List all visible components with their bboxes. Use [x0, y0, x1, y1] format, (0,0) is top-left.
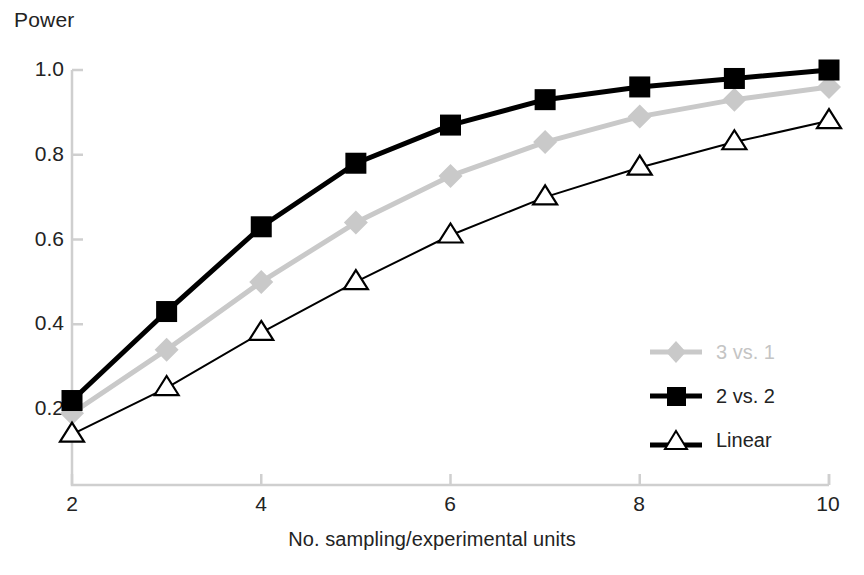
- legend-label-2-vs-2: 2 vs. 2: [716, 385, 775, 408]
- legend: 3 vs. 1 2 vs. 2 Linear: [648, 330, 775, 462]
- legend-label-linear: Linear: [716, 429, 772, 452]
- triangle-icon: [648, 425, 704, 455]
- legend-item-3-vs-1[interactable]: 3 vs. 1: [648, 330, 775, 374]
- legend-item-2-vs-2[interactable]: 2 vs. 2: [648, 374, 775, 418]
- plot-area: [0, 0, 864, 575]
- diamond-icon: [648, 337, 704, 367]
- power-curve-chart: Power 1.0 0.8 0.6 0.4 0.2 2 4 6 8 10 No.…: [0, 0, 864, 575]
- legend-item-linear[interactable]: Linear: [648, 418, 775, 462]
- legend-label-3-vs-1: 3 vs. 1: [716, 341, 775, 364]
- square-icon: [648, 381, 704, 411]
